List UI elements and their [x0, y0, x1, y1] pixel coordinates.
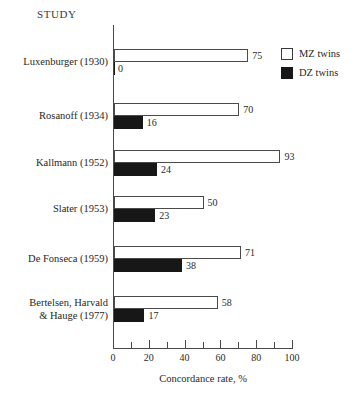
bar-group: Rosanoff (1934)7016 [0, 103, 364, 129]
x-tick-label-60: 60 [215, 352, 225, 363]
bar-value-mz: 58 [222, 296, 232, 309]
category-label-line: Rosanoff (1934) [39, 110, 108, 122]
bar-group: Slater (1953)5023 [0, 196, 364, 222]
x-tick-100 [292, 340, 293, 348]
bar-value-mz: 50 [208, 196, 218, 209]
study-column-header: STUDY [37, 8, 77, 20]
bar-value-dz: 0 [118, 62, 123, 75]
category-label: Bertelsen, Harvald& Hauge (1977) [29, 297, 108, 322]
bar-value-mz: 71 [245, 246, 255, 259]
x-tick-label-0: 0 [111, 352, 116, 363]
concordance-rate-bar-chart: STUDY 020406080100 Concordance rate, % L… [0, 0, 364, 400]
x-tick-label-20: 20 [144, 352, 154, 363]
bar-dz [114, 209, 155, 222]
bar-dz [114, 309, 144, 322]
bar-mz [114, 103, 239, 116]
x-tick-60 [220, 340, 221, 348]
bar-mz [114, 196, 204, 209]
bar-group: Bertelsen, Harvald& Hauge (1977)5817 [0, 296, 364, 322]
bar-group: De Fonseca (1959)7138 [0, 246, 364, 272]
category-label-line: & Hauge (1977) [29, 310, 108, 323]
bar-mz [114, 150, 280, 163]
bar-value-mz: 93 [284, 150, 294, 163]
legend-label-dz: DZ twins [299, 67, 338, 78]
x-tick-0 [113, 340, 114, 348]
x-tick-40 [185, 340, 186, 348]
bar-value-dz: 24 [161, 163, 171, 176]
bar-value-mz: 75 [252, 49, 262, 62]
legend-label-mz: MZ twins [299, 48, 340, 59]
bar-value-dz: 16 [147, 116, 157, 129]
bar-dz [114, 116, 143, 129]
x-tick-90 [274, 342, 275, 348]
bar-value-mz: 70 [243, 103, 253, 116]
x-axis-line [113, 348, 293, 349]
category-label: Kallmann (1952) [36, 157, 108, 169]
x-tick-10 [131, 342, 132, 348]
bar-value-dz: 23 [159, 209, 169, 222]
legend-swatch-mz-icon [281, 48, 293, 60]
x-tick-30 [167, 342, 168, 348]
bar-value-dz: 17 [148, 309, 158, 322]
bar-dz [114, 62, 115, 75]
category-label-line: Kallmann (1952) [36, 157, 108, 169]
bar-group: Kallmann (1952)9324 [0, 150, 364, 176]
category-label-line: Luxenburger (1930) [23, 56, 108, 68]
x-tick-80 [256, 340, 257, 348]
x-tick-label-80: 80 [251, 352, 261, 363]
legend: MZ twins DZ twins [281, 44, 340, 82]
category-label-line: Bertelsen, Harvald [29, 297, 108, 310]
category-label: Rosanoff (1934) [39, 110, 108, 122]
bar-dz [114, 163, 157, 176]
x-tick-label-40: 40 [180, 352, 190, 363]
x-tick-label-100: 100 [285, 352, 300, 363]
bar-value-dz: 38 [186, 259, 196, 272]
bar-dz [114, 259, 182, 272]
legend-item-dz: DZ twins [281, 63, 340, 82]
category-label-line: De Fonseca (1959) [28, 253, 108, 265]
bar-mz [114, 296, 218, 309]
x-tick-50 [203, 342, 204, 348]
legend-item-mz: MZ twins [281, 44, 340, 63]
category-label-line: Slater (1953) [53, 203, 108, 215]
legend-swatch-dz-icon [281, 67, 293, 79]
bar-mz [114, 49, 248, 62]
category-label: Luxenburger (1930) [23, 56, 108, 68]
bar-mz [114, 246, 241, 259]
category-label: De Fonseca (1959) [28, 253, 108, 265]
x-tick-20 [149, 340, 150, 348]
x-axis-title: Concordance rate, % [113, 373, 293, 384]
x-tick-70 [238, 342, 239, 348]
category-label: Slater (1953) [53, 203, 108, 215]
